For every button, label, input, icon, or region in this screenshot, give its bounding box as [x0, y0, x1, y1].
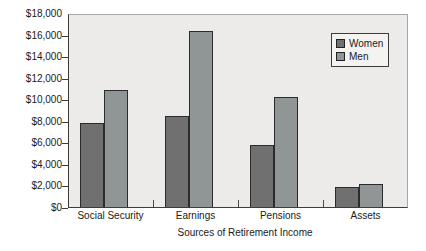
x-axis-title: Sources of Retirement Income	[68, 227, 422, 239]
legend-label: Women	[349, 37, 383, 50]
y-tick-mark	[62, 57, 68, 58]
legend-swatch-icon	[336, 39, 345, 48]
x-axis-tick	[238, 200, 239, 207]
y-tick-label: $4,000	[4, 159, 62, 171]
y-tick-label: $8,000	[4, 116, 62, 128]
y-tick-mark	[62, 36, 68, 37]
y-tick-mark	[62, 122, 68, 123]
y-tick-label: $6,000	[4, 137, 62, 149]
y-tick-mark	[62, 165, 68, 166]
x-category-label-social-security: Social Security	[68, 210, 153, 222]
y-tick-label: $16,000	[4, 30, 62, 42]
bar-men-social-security	[104, 90, 128, 207]
y-tick-mark	[62, 143, 68, 144]
y-tick-label: $14,000	[4, 51, 62, 63]
legend-swatch-icon	[336, 52, 345, 61]
y-tick-label: $0	[4, 202, 62, 214]
bar-women-pensions	[250, 145, 274, 207]
y-tick-label: $12,000	[4, 73, 62, 85]
bar-men-assets	[359, 184, 383, 207]
bar-men-pensions	[274, 97, 298, 207]
legend-item-men: Men	[336, 50, 383, 63]
bar-men-earnings	[189, 31, 213, 207]
bar-women-earnings	[165, 116, 189, 207]
y-tick-label: $10,000	[4, 94, 62, 106]
x-axis-tick	[323, 200, 324, 207]
y-tick-mark	[62, 186, 68, 187]
legend-item-women: Women	[336, 37, 383, 50]
y-tick-mark	[62, 79, 68, 80]
y-tick-mark	[62, 208, 68, 209]
legend-label: Men	[349, 50, 368, 63]
x-category-label-pensions: Pensions	[238, 210, 323, 222]
x-axis-tick	[153, 200, 154, 207]
legend: WomenMen	[331, 33, 389, 67]
bar-women-assets	[335, 187, 359, 207]
figure: Sources of Retirement Income WomenMen $1…	[0, 0, 426, 251]
y-tick-mark	[62, 100, 68, 101]
y-tick-label: $18,000	[4, 8, 62, 20]
x-category-label-earnings: Earnings	[153, 210, 238, 222]
y-tick-label: $2,000	[4, 180, 62, 192]
x-category-label-assets: Assets	[323, 210, 408, 222]
bar-women-social-security	[80, 123, 104, 207]
